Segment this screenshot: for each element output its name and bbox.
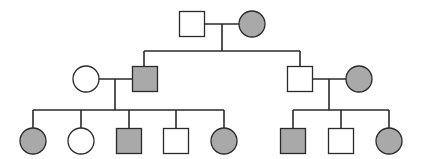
unaffected-male-i-1 bbox=[180, 12, 205, 37]
affected-female-iii-5 bbox=[211, 128, 237, 154]
affected-male-iii-6 bbox=[281, 129, 306, 154]
affected-male-ii-2 bbox=[133, 67, 158, 92]
affected-male-iii-3 bbox=[117, 129, 142, 154]
individuals bbox=[20, 11, 402, 154]
affected-female-iii-8 bbox=[376, 128, 402, 154]
affected-female-ii-4 bbox=[346, 66, 372, 92]
affected-female-i-2 bbox=[239, 11, 265, 37]
unaffected-male-ii-3 bbox=[288, 67, 313, 92]
unaffected-female-iii-2 bbox=[68, 128, 94, 154]
unaffected-male-iii-4 bbox=[164, 129, 189, 154]
pedigree-chart bbox=[0, 0, 424, 159]
affected-female-iii-1 bbox=[20, 128, 46, 154]
unaffected-female-ii-1 bbox=[73, 66, 99, 92]
unaffected-male-iii-7 bbox=[329, 129, 354, 154]
